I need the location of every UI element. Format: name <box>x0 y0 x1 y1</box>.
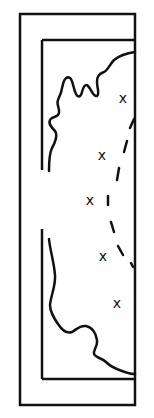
coastline-upper <box>49 52 135 171</box>
x-mark: x <box>113 296 121 310</box>
x-mark: x <box>98 148 106 162</box>
map-diagram <box>0 0 154 418</box>
x-mark: x <box>86 193 94 207</box>
x-mark: x <box>99 249 107 263</box>
outer-frame <box>20 14 135 405</box>
coastline-lower <box>49 239 135 374</box>
dashed-boundary <box>108 119 134 267</box>
x-mark: x <box>119 91 127 105</box>
